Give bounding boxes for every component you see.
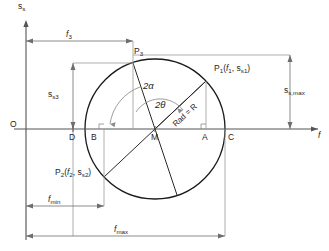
point-p2-label: P2(f2, ss2) [55, 168, 91, 177]
dim-arrow-f3-right [126, 39, 133, 44]
s-axis-label: ss [18, 2, 25, 11]
dim-arrow-fmin-right [97, 204, 104, 209]
right-angle-mark-a [201, 124, 206, 129]
dim-arrow-ss3-top [71, 63, 76, 70]
dim-arrow-ssmax-top [288, 55, 293, 62]
origin-label: O [10, 120, 17, 129]
right-angle-mark-b [99, 124, 104, 129]
point-c-label: C [228, 133, 234, 142]
dim-label-f3: f3 [66, 30, 72, 39]
dim-arrow-fmin-left [26, 204, 33, 209]
diagram-canvas [0, 0, 329, 251]
angle-arc-2alpha [110, 87, 140, 124]
geometric-diagram: ss f O D B M A C P3 P1(f1, ss1) P2(f2, s… [0, 0, 329, 251]
f-axis-label: f [318, 131, 320, 140]
dim-arrow-fmax-left [26, 234, 33, 239]
point-b-label: B [91, 133, 97, 142]
dim-label-ssmax: ss,max [284, 86, 305, 95]
angle-2theta-label: 2θ [155, 100, 165, 110]
f-axis-arrowhead [311, 126, 318, 131]
dim-arrow-f3-left [26, 39, 33, 44]
dim-label-fmin: fmin [48, 195, 60, 204]
dim-arrow-ssmax-bottom [288, 122, 293, 129]
point-m-label: M [151, 133, 158, 142]
angle-2alpha-label: 2α [143, 81, 154, 91]
point-a-label: A [202, 133, 208, 142]
s-axis-arrowhead [23, 20, 28, 27]
dim-label-ss3: ss3 [48, 90, 59, 99]
point-p3-label: P3 [134, 47, 143, 56]
angle-arc-2alpha-arrowhead [110, 122, 116, 127]
point-p1-label: P1(f1, ss1) [214, 64, 250, 73]
dim-label-fmax: fmax [114, 225, 128, 234]
dim-arrow-fmax-right [218, 234, 225, 239]
point-d-label: D [69, 133, 75, 142]
